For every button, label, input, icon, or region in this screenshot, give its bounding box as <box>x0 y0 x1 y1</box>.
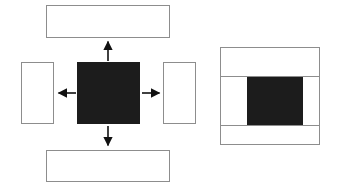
diagram-canvas <box>0 0 339 192</box>
core-block <box>247 77 303 125</box>
bottom-band <box>220 125 320 145</box>
assembled-view-figure <box>0 0 339 192</box>
top-band <box>220 47 320 77</box>
